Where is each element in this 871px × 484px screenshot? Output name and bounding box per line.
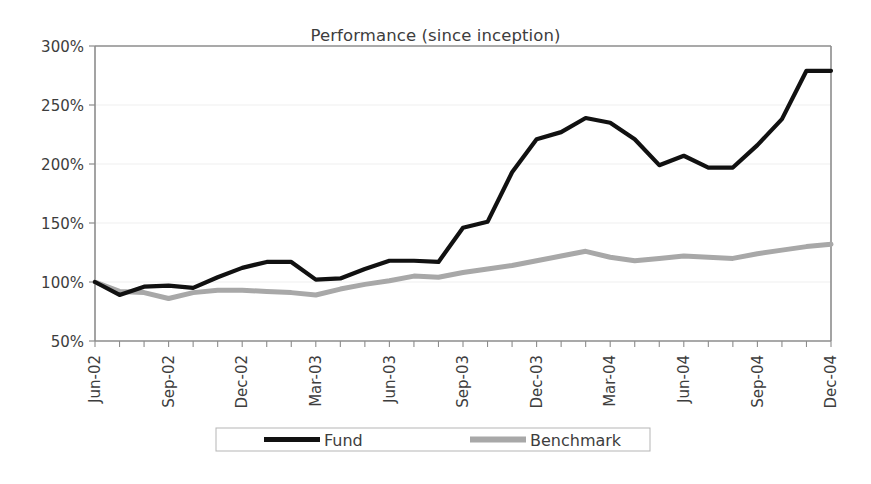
x-tick-label: Dec-03 xyxy=(528,355,546,409)
y-tick-label: 100% xyxy=(41,274,84,292)
x-tick-label: Jun-02 xyxy=(86,355,104,404)
chart-legend: FundBenchmark xyxy=(216,428,650,451)
x-tick-label: Mar-03 xyxy=(307,355,325,407)
x-tick-label: Dec-02 xyxy=(233,355,251,409)
y-tick-label: 250% xyxy=(41,97,84,115)
series-line-benchmark xyxy=(95,244,831,298)
x-tick-label: Sep-04 xyxy=(749,355,767,408)
x-tick-label: Mar-04 xyxy=(601,355,619,407)
legend-label-fund: Fund xyxy=(324,431,363,450)
y-tick-label: 200% xyxy=(41,156,84,174)
x-tick-label: Jun-03 xyxy=(381,355,399,404)
x-tick-label: Sep-03 xyxy=(454,355,472,408)
x-tick-label: Dec-04 xyxy=(822,355,840,409)
y-tick-label: 150% xyxy=(41,215,84,233)
y-tick-labels: 50%100%150%200%250%300% xyxy=(41,38,84,351)
y-axis xyxy=(89,46,831,341)
y-tick-label: 300% xyxy=(41,38,84,56)
series-line-fund xyxy=(95,71,831,295)
x-tick-labels: Jun-02Sep-02Dec-02Mar-03Jun-03Sep-03Dec-… xyxy=(86,355,840,409)
y-tick-label: 50% xyxy=(51,333,84,351)
legend-label-benchmark: Benchmark xyxy=(530,431,622,450)
x-tick-label: Sep-02 xyxy=(160,355,178,408)
x-tick-label: Jun-04 xyxy=(675,355,693,404)
x-axis xyxy=(95,341,831,347)
performance-chart: Performance (since inception) 50%100%150… xyxy=(0,0,871,484)
chart-plot-area: 50%100%150%200%250%300% Jun-02Sep-02Dec-… xyxy=(0,0,871,484)
